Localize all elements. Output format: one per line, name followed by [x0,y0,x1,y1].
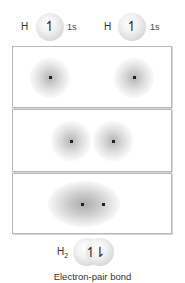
panel-bonded [12,173,172,234]
caption: Electron-pair bond [0,271,185,282]
spin-up-arrow-icon: ↿ [42,19,58,33]
nucleus-dot [81,203,84,206]
panel-approaching [12,109,172,172]
nucleus-dot [102,203,105,206]
nucleus-dot [112,140,115,143]
molecule-subscript: 2 [64,252,68,259]
shared-electron-cloud [48,181,120,227]
orbital-label: 1s [150,22,160,32]
atom-symbol: H [21,22,28,32]
orbital-label: 1s [67,22,77,32]
spin-up-arrow-icon: ↿ [124,19,140,33]
nucleus-dot [49,76,52,79]
paired-spin-arrows-icon: ↿⇂ [84,245,104,259]
nucleus-dot [70,140,73,143]
nucleus-dot [133,76,136,79]
atom-symbol: H [104,22,111,32]
molecule-formula: H2 [57,246,68,259]
panel-separated [12,46,172,108]
